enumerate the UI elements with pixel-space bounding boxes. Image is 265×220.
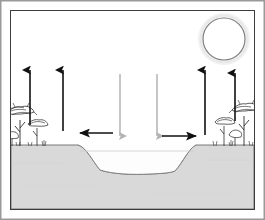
scene-content <box>4 11 262 209</box>
diagram-canvas <box>0 0 265 220</box>
sun-icon <box>197 12 251 66</box>
figure-root: Savanna dry basin water balance diagram … <box>0 0 265 220</box>
sun-disc <box>203 18 245 60</box>
